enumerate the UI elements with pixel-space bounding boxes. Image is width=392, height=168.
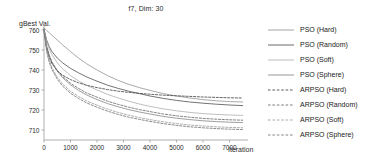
y-tick-label: 740 [29, 67, 40, 74]
legend-item-label: ARPSO (Soft) [300, 115, 344, 124]
x-tick-label: 3000 [116, 144, 131, 151]
series-line [44, 28, 243, 102]
y-tick-label: 730 [29, 87, 40, 94]
legend-item-label: ARPSO (Hard) [300, 85, 346, 94]
x-tick-label: 2000 [90, 144, 105, 151]
legend-item[interactable]: ARPSO (Hard) [268, 82, 392, 97]
series-line [44, 30, 243, 116]
legend-item-label: PSO (Random) [300, 40, 348, 49]
series-line [44, 29, 243, 120]
legend-item[interactable]: PSO (Soft) [268, 52, 392, 67]
chart-figure: f7, Dim: 30 gBest Val. 71072073074075076… [0, 0, 392, 168]
y-tick-label: 760 [29, 27, 40, 34]
legend-item-label: ARPSO (Random) [300, 100, 358, 109]
legend-item[interactable]: PSO (Sphere) [268, 67, 392, 82]
legend-item-label: PSO (Soft) [300, 55, 334, 64]
legend-item[interactable]: ARPSO (Random) [268, 97, 392, 112]
series-line [44, 29, 243, 105]
x-tick-label: 1000 [63, 144, 78, 151]
series-line [44, 32, 243, 98]
legend-item[interactable]: ARPSO (Soft) [268, 112, 392, 127]
legend-item[interactable]: PSO (Random) [268, 37, 392, 52]
legend-item[interactable]: PSO (Hard) [268, 22, 392, 37]
x-tick-label: 5000 [169, 144, 184, 151]
y-tick-label: 720 [29, 107, 40, 114]
y-tick-label: 750 [29, 47, 40, 54]
series-line [44, 30, 243, 122]
x-axis-label: Iteration [228, 146, 253, 153]
legend-item-label: PSO (Hard) [300, 25, 337, 34]
x-tick-label: 6000 [196, 144, 211, 151]
chart-legend: PSO (Hard)PSO (Random)PSO (Soft)PSO (Sph… [268, 22, 392, 142]
x-tick-label: 0 [42, 144, 46, 151]
legend-item-label: PSO (Sphere) [300, 70, 344, 79]
x-tick-label: 4000 [143, 144, 158, 151]
y-tick-label: 710 [29, 127, 40, 134]
legend-item[interactable]: ARPSO (Sphere) [268, 127, 392, 142]
legend-item-label: ARPSO (Sphere) [300, 130, 354, 139]
